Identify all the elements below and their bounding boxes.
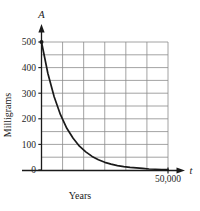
initial-value-marker — [40, 40, 44, 44]
y-axis-tick-label: 400 — [22, 63, 37, 73]
decay-chart-figure: 0100200300400500 A t 50,000 Years Millig… — [0, 0, 200, 211]
y-axis-tick-label: 500 — [22, 37, 37, 47]
exponential-decay-chart: 0100200300400500 A t 50,000 Years Millig… — [0, 0, 200, 211]
y-axis-tick-label: 0 — [31, 165, 36, 175]
x-axis-end-tick-label: 50,000 — [155, 174, 181, 184]
y-axis-name-label: Milligrams — [2, 93, 13, 138]
y-axis-tick-label: 200 — [22, 114, 37, 124]
y-axis-symbol-label: A — [37, 9, 45, 20]
y-axis-tick-label: 300 — [22, 89, 37, 99]
y-axis-tick-label: 100 — [22, 140, 37, 150]
x-axis-name-label: Years — [69, 190, 91, 201]
